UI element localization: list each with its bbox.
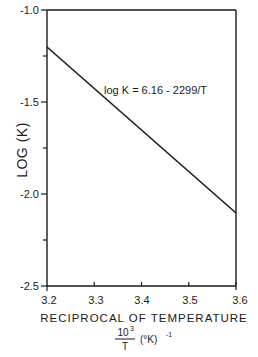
unit-label: (°K) [140,334,157,345]
x-axis-unit: 10 3 T (°K) -1 [115,325,172,352]
y-tick-label: -2.0 [20,188,39,200]
y-tick-label: -1.5 [20,96,39,108]
x-tick-label: 3.3 [88,294,103,306]
x-axis-title: RECIPROCAL OF TEMPERATURE [40,312,248,324]
fraction-denominator: T [122,341,128,352]
unit-exponent: -1 [166,331,172,338]
y-axis-ticks [41,10,47,286]
x-tick-label: 3.4 [134,294,149,306]
equation-annotation: log K = 6.16 - 2299/T [104,84,207,96]
x-tick-label: 3.2 [41,294,56,306]
y-tick-label: -2.5 [20,280,39,292]
y-axis-title: LOG (K) [14,122,30,178]
series-line [47,47,236,213]
chart: -1.0 -1.5 -2.0 -2.5 3.2 3.3 3.4 3.5 3.6 … [0,0,258,357]
fraction-exponent: 3 [130,325,134,332]
y-tick-label: -1.0 [20,4,39,16]
plot-frame [47,10,236,286]
x-tick-label: 3.5 [182,294,197,306]
x-tick-label: 3.6 [232,294,247,306]
fraction-numerator: 10 [117,327,129,338]
